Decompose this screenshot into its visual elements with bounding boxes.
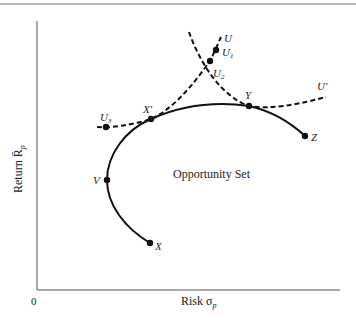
label-u: U (224, 32, 233, 44)
label-v: V (93, 174, 101, 186)
label-y: Y (245, 89, 253, 101)
x-axis-label: Risk σp (181, 294, 216, 310)
point-x-prime (148, 116, 154, 122)
point-v (104, 177, 110, 183)
point-z (302, 133, 308, 139)
point-x (147, 240, 153, 246)
svg-text:Return R̄p: Return R̄p (11, 145, 27, 193)
point-y (246, 103, 252, 109)
svg-text:Risk σp: Risk σp (181, 294, 216, 310)
point-u1 (213, 47, 219, 53)
opportunity-set-diagram: 0 Risk σp Return R̄p X V X′ Y Z U3 U1 U2 (0, 0, 356, 321)
label-x-prime: X′ (142, 103, 153, 115)
point-u2 (207, 58, 213, 64)
label-u2: U2 (213, 67, 225, 81)
label-z: Z (311, 131, 318, 143)
indifference-curve-u3 (97, 37, 221, 127)
indifference-curve-u-prime (189, 32, 326, 107)
origin-label: 0 (31, 295, 37, 307)
label-x: X (154, 240, 163, 252)
opportunity-set-label: Opportunity Set (173, 167, 251, 181)
y-axis-label: Return R̄p (11, 145, 27, 193)
label-u-prime: U′ (317, 80, 328, 92)
label-u3: U3 (100, 111, 112, 125)
label-u1: U1 (222, 46, 233, 60)
